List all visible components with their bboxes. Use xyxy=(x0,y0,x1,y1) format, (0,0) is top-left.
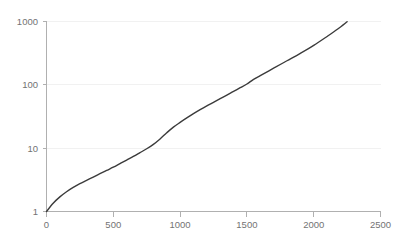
y-tick-label-10: 10 xyxy=(27,143,38,154)
x-tick-label-500: 500 xyxy=(105,219,121,230)
x-tick-label-0: 0 xyxy=(44,219,49,230)
gridlines-group xyxy=(47,22,381,212)
x-tick-label-1500: 1500 xyxy=(236,219,257,230)
y-tick-labels-group: 1000 100 10 1 xyxy=(17,16,38,217)
data-series-line xyxy=(47,22,348,212)
x-tick-labels-group: 0 500 1000 1500 2000 2500 xyxy=(44,219,391,230)
y-tick-label-1000: 1000 xyxy=(17,16,38,27)
x-tick-label-1000: 1000 xyxy=(170,219,191,230)
y-tick-marks-group xyxy=(43,22,47,212)
y-tick-label-100: 100 xyxy=(22,79,38,90)
y-tick-label-1: 1 xyxy=(33,206,38,217)
x-tick-marks-group xyxy=(47,212,381,217)
axes-group xyxy=(47,22,381,212)
log-line-chart: 1000 100 10 1 0 500 1000 1500 2000 2500 xyxy=(0,0,418,248)
x-tick-label-2000: 2000 xyxy=(303,219,324,230)
chart-canvas: 1000 100 10 1 0 500 1000 1500 2000 2500 xyxy=(0,0,418,248)
x-tick-label-2500: 2500 xyxy=(370,219,391,230)
